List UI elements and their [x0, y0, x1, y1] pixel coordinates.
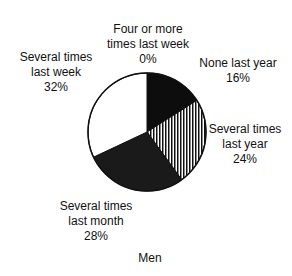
chart-caption: Men [120, 251, 180, 266]
label-none-last-year: None last year 16% [190, 56, 286, 86]
label-four-or-more: Four or more times last week 0% [100, 22, 196, 67]
label-several-week: Several times last week 32% [8, 50, 104, 95]
label-several-year: Several times last year 24% [198, 122, 292, 167]
label-several-month: Several times last month 28% [48, 199, 144, 244]
